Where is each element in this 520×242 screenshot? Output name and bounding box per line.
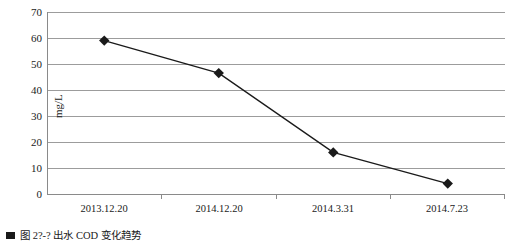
y-tick-label-10: 10 <box>31 163 42 174</box>
caption-text: 图 2?-? 出水 COD 变化趋势 <box>20 230 141 241</box>
chart-plot-area: 70 60 50 40 30 20 10 0 2013.12.20 2014.1… <box>47 12 505 194</box>
x-tick-mark-4 <box>504 194 505 199</box>
data-point-marker-1 <box>214 68 224 78</box>
data-series-cod <box>47 12 505 194</box>
x-tick-mark-3 <box>390 194 391 199</box>
y-tick-label-30: 30 <box>31 111 42 122</box>
y-tick-label-20: 20 <box>31 137 42 148</box>
y-tick-label-40: 40 <box>31 85 42 96</box>
data-point-marker-3 <box>443 178 453 188</box>
x-tick-mark-1 <box>161 194 162 199</box>
y-tick-label-0: 0 <box>37 189 43 200</box>
data-point-marker-2 <box>328 147 338 157</box>
x-tick-label-0: 2013.12.20 <box>80 204 127 215</box>
y-tick-label-60: 60 <box>31 33 42 44</box>
x-tick-label-3: 2014.7.23 <box>426 204 468 215</box>
figure-caption: 图 2?-? 出水 COD 变化趋势 <box>6 229 141 242</box>
y-axis-title: mg/L <box>53 94 64 118</box>
x-tick-mark-2 <box>276 194 277 199</box>
x-tick-label-2: 2014.3.31 <box>312 204 354 215</box>
y-tick-label-70: 70 <box>31 7 42 18</box>
y-tick-label-50: 50 <box>31 59 42 70</box>
caption-bullet-icon <box>6 232 15 239</box>
plot-inner: 70 60 50 40 30 20 10 0 2013.12.20 2014.1… <box>47 12 505 194</box>
x-tick-label-1: 2014.12.20 <box>195 204 242 215</box>
data-point-marker-0 <box>99 35 109 45</box>
